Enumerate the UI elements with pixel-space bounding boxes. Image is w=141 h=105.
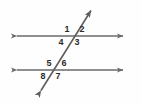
transversal-group <box>41 11 91 91</box>
angle-label-6: 6 <box>59 59 69 68</box>
transversal-line <box>41 11 91 91</box>
angle-label-2: 2 <box>77 25 87 34</box>
parallel-lines-group <box>17 36 123 70</box>
angle-label-4: 4 <box>56 38 66 47</box>
angle-label-8: 8 <box>38 72 48 81</box>
angle-label-5: 5 <box>44 59 54 68</box>
angle-label-3: 3 <box>72 38 82 47</box>
angle-label-7: 7 <box>53 72 63 81</box>
angle-label-1: 1 <box>62 25 72 34</box>
geometry-figure: 1 2 3 4 5 6 7 8 <box>0 0 141 105</box>
figure-canvas <box>0 0 141 105</box>
